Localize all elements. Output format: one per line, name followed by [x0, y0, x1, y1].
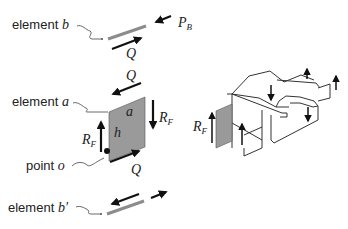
- dim-a-label: a: [126, 104, 133, 119]
- force-RF-right-label: RF: [158, 110, 174, 127]
- shear-Q-arrow-b-prime: [112, 194, 139, 204]
- shear-Q-arrow-a-top: [113, 83, 141, 94]
- box-girder-3d: RF: [192, 69, 336, 156]
- top-plate-back: [276, 96, 318, 107]
- element-b-prime-label: element b′: [8, 200, 69, 215]
- diag-edge: [232, 123, 262, 140]
- force-RF-left-label: RF: [81, 132, 97, 149]
- force-PB-prime-arrow: [151, 192, 166, 198]
- shear-Q-label-a-bottom: Q: [131, 162, 141, 177]
- element-b-prime-group: element b′: [8, 192, 166, 215]
- shear-flow-diagram: element b PB Q Q element a a h RF RF poi…: [0, 0, 348, 229]
- force-PB-label: PB: [177, 15, 193, 32]
- element-b-leader-line: [77, 26, 101, 39]
- point-o-marker: [104, 148, 110, 154]
- point-o-label: point o: [26, 158, 65, 173]
- element-a-leader-line: [73, 103, 108, 112]
- shear-Q-label-b: Q: [126, 46, 136, 61]
- girder-shaded-element: [216, 104, 232, 148]
- girder-top-edge: [232, 71, 314, 94]
- point-o-leader-line: [72, 158, 104, 166]
- bottom-flange: [271, 120, 318, 143]
- force-RF-label-3d: RF: [192, 119, 208, 136]
- element-b-prime-leader-line: [76, 206, 100, 214]
- dim-h-label: h: [114, 125, 121, 140]
- leader-dot: [101, 38, 103, 40]
- element-b-label: element b: [12, 17, 69, 32]
- bottom-cutout: [244, 140, 262, 156]
- shear-Q-label-a-top: Q: [126, 68, 136, 83]
- leader-dot: [100, 213, 102, 215]
- element-b-group: element b PB Q: [12, 15, 193, 61]
- right-flange-plate: [318, 84, 330, 101]
- element-a-label: element a: [12, 94, 69, 109]
- element-a-group: Q element a a h RF RF point o Q: [12, 68, 174, 177]
- force-PB-arrow: [156, 16, 171, 22]
- element-b-bar: [108, 26, 146, 39]
